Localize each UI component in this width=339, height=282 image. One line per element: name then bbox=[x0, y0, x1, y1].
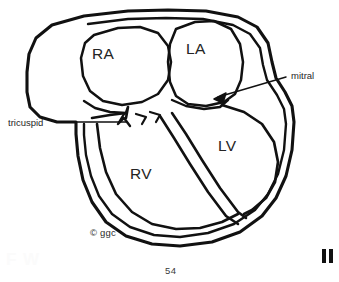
septum-right-line bbox=[160, 116, 238, 224]
page-number: 54 bbox=[165, 265, 177, 276]
chamber-label-ra: RA bbox=[92, 45, 114, 63]
chamber-label-rv: RV bbox=[130, 165, 152, 183]
faint-scan-text: F W bbox=[6, 250, 40, 270]
tricuspid-leaflet-3 bbox=[150, 112, 160, 122]
tricuspid-leaflet-1 bbox=[118, 114, 130, 126]
chamber-label-lv: LV bbox=[218, 137, 237, 155]
left-ventricle-outline bbox=[222, 105, 278, 214]
figure-page: RA LA RV LV tricuspid mitral © ggc 54 F … bbox=[0, 0, 339, 282]
chamber-label-la: LA bbox=[186, 40, 206, 58]
septum-left-line bbox=[172, 113, 246, 218]
heart-diagram bbox=[0, 0, 339, 282]
copyright-mark: © ggc bbox=[90, 227, 116, 238]
mitral-arrowhead bbox=[214, 93, 226, 103]
scan-edge-mark bbox=[329, 249, 333, 263]
mitral-valve-label: mitral bbox=[291, 70, 314, 81]
right-ventricle-outline bbox=[97, 124, 238, 229]
tricuspid-valve-label: tricuspid bbox=[8, 117, 43, 128]
scan-edge-mark bbox=[322, 249, 326, 263]
right-atrium-floor bbox=[84, 101, 126, 113]
tricuspid-leaflet-2 bbox=[136, 114, 146, 124]
right-atrium-outline bbox=[81, 27, 171, 105]
